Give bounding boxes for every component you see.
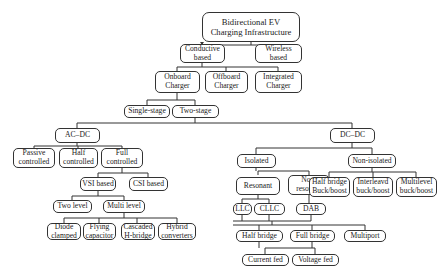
node-passive-controlled: Passive controlled [13,148,55,168]
node-integrated: Integrated Charger [255,71,302,93]
node-half-bridge-buck-boost: Half bridge Buck/boost [309,177,350,197]
node-dc-dc: DC–DC [330,128,375,143]
node-multiport: Multiport [344,230,386,242]
node-diode-clamped: Diode clamped [47,223,81,240]
node-cascaded-h-bridge: Cascaded H-bridge [121,223,155,240]
node-wireless: Wireless based [255,44,302,63]
node-full-bridge: Full bridge [290,230,335,242]
node-voltage-fed: Voltage fed [292,254,339,266]
node-single-stage: Single-stage [124,105,170,118]
node-llc: LLC [233,203,252,215]
node-root: Bidirectional EV Charging Infrastructure [202,12,300,42]
node-onboard: Onboard Charger [155,71,200,93]
node-interleaved-buck-boost: Interleavd buck/boost [353,177,393,197]
node-half-bridge: Half bridge [236,230,283,242]
node-conductive: Conductive based [180,44,225,63]
node-ac-dc: AC–DC [55,128,100,143]
node-half-controlled: Half controlled [59,148,98,168]
node-non-isolated: Non-isolated [348,154,396,168]
node-dab: DAB [296,203,326,215]
node-hybrid-converters: Hybrid converters [158,223,196,240]
node-multi-level: Multi level [103,200,145,213]
node-offboard: Offboard Charger [205,71,248,93]
node-two-level: Two level [53,200,92,213]
node-cllc: CLLC [254,203,285,215]
node-flying-capacitor: Flying capacitor [83,223,116,240]
node-two-stage: Two-stage [172,105,219,118]
node-multilevel-buck-boost: Multilevel buck/boost [396,177,437,197]
node-isolated: Isolated [237,154,276,168]
node-csi-based: CSI based [129,177,168,191]
ev-charging-tree-diagram: Bidirectional EV Charging Infrastructure… [0,0,448,279]
node-full-controlled: Full controlled [101,148,143,168]
node-current-fed: Current fed [242,254,289,266]
node-vsi-based: VSI based [80,177,116,191]
node-resonant: Resonant [236,177,280,195]
